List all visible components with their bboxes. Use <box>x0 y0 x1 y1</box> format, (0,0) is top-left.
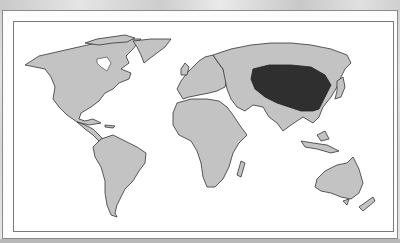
map-frame <box>13 21 394 232</box>
greenland <box>133 39 171 63</box>
australia <box>315 157 363 199</box>
south-america <box>93 135 146 217</box>
africa <box>173 99 247 187</box>
uk <box>181 63 189 75</box>
world-map <box>14 22 395 233</box>
southeast-asia-islands <box>301 141 339 153</box>
bottom-edge <box>0 239 400 243</box>
north-america <box>25 39 141 125</box>
new-zealand <box>359 197 375 211</box>
madagascar <box>237 161 245 177</box>
